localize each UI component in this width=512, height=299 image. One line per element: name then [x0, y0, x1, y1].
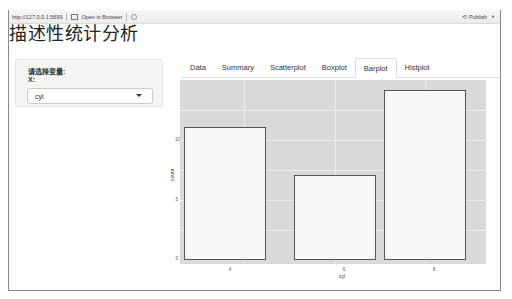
tab-bar: Data Summary Scatterplot Boxplot Barplot…: [182, 58, 500, 78]
chevron-down-icon: ▼: [491, 14, 495, 19]
y-tick-10: 10: [170, 137, 180, 142]
bar-cyl-6: [294, 175, 376, 260]
bar-cyl-4: [184, 127, 266, 260]
variable-label-line1: 请选择变量:: [28, 68, 65, 76]
x-tick-6: 6: [339, 267, 349, 272]
tab-boxplot[interactable]: Boxplot: [314, 58, 355, 78]
y-axis-label: count: [169, 169, 175, 181]
variable-select-value: cyl: [35, 93, 44, 100]
x-axis-label: cyl: [339, 273, 345, 279]
variable-label: 请选择变量: X:: [28, 68, 65, 84]
tab-barplot[interactable]: Barplot: [355, 58, 397, 78]
y-tick-0: 0: [168, 256, 178, 261]
chevron-down-icon: [136, 94, 142, 97]
tab-data[interactable]: Data: [182, 58, 214, 78]
sidebar-panel: 请选择变量: X: cyl: [15, 59, 163, 107]
y-tick-5: 5: [168, 197, 178, 202]
x-tick-8: 8: [429, 267, 439, 272]
variable-label-line2: X:: [28, 76, 65, 84]
publish-label: Publish: [469, 14, 487, 20]
x-tick-4: 4: [225, 267, 235, 272]
barplot-chart: 0 5 10 count 4 6 8 cyl: [172, 80, 500, 276]
tab-histplot[interactable]: Histplot: [397, 58, 438, 78]
plot-panel: [180, 80, 486, 264]
tab-scatterplot[interactable]: Scatterplot: [262, 58, 314, 78]
publish-button[interactable]: ⟲ Publish ▼: [462, 13, 495, 20]
tab-summary[interactable]: Summary: [214, 58, 262, 78]
bar-cyl-8: [384, 90, 466, 260]
publish-icon: ⟲: [462, 13, 467, 20]
variable-select[interactable]: cyl: [27, 88, 153, 104]
page-title: 描述性统计分析: [9, 19, 139, 45]
